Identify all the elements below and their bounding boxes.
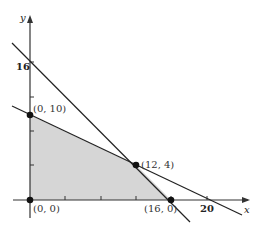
y-axis-label: y [19, 12, 26, 23]
vertex-label-0-0: (0, 0) [33, 203, 60, 214]
y-axis-arrow-icon [27, 15, 33, 23]
vertex-label-16-0: (16, 0) [144, 203, 177, 214]
feasible-region [30, 115, 171, 200]
feasible-region-diagram: (0, 0) (0, 10) (12, 4) (16, 0) 20 16 x y [0, 0, 264, 227]
x-axis-arrow-icon [242, 197, 250, 203]
vertex-label-0-10: (0, 10) [33, 103, 66, 114]
vertex-12-4 [133, 162, 140, 169]
y-tick-label-16: 16 [16, 61, 30, 72]
x-axis-label: x [244, 204, 250, 215]
vertex-label-12-4: (12, 4) [141, 159, 174, 170]
x-tick-label-20: 20 [200, 203, 214, 214]
